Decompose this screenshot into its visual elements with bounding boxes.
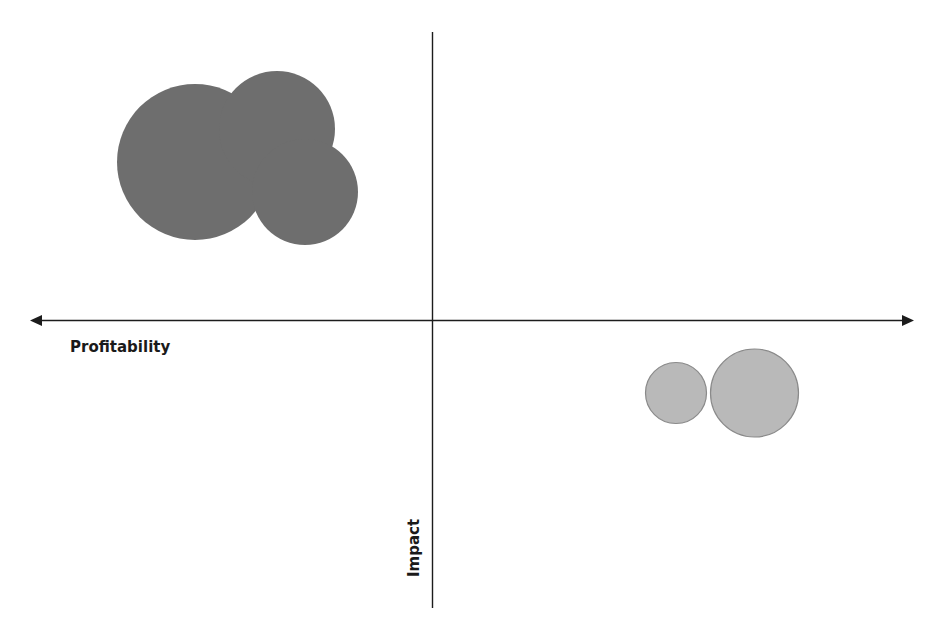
quadrant-diagram: Profitability Impact <box>0 0 946 637</box>
lower-right-bubble-group <box>646 349 799 437</box>
bubble-small-light <box>646 363 707 424</box>
horizontal-axis <box>30 315 914 326</box>
bubble-small-dark <box>252 139 358 245</box>
vertical-axis-label: Impact <box>405 519 423 577</box>
horizontal-axis-label: Profitability <box>70 338 170 356</box>
upper-left-bubble-group <box>117 71 358 245</box>
bubble-medium-light <box>711 349 799 437</box>
arrow-right-icon <box>902 315 914 326</box>
arrow-left-icon <box>30 315 42 326</box>
